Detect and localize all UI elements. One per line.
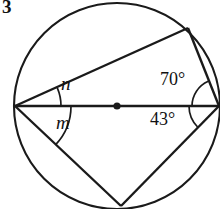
chord-left-to-topright xyxy=(15,28,188,106)
angle-label-43-degrees: 43° xyxy=(150,110,175,128)
center-dot xyxy=(113,102,120,109)
problem-number-label: 3 xyxy=(2,0,12,16)
chord-topright-to-right xyxy=(188,28,219,106)
angle-label-n: n xyxy=(61,74,71,93)
angle-arc-43 xyxy=(189,106,198,127)
circle-geometry-diagram xyxy=(0,0,220,209)
angle-arc-70 xyxy=(192,81,208,106)
geometry-figure: 3 n m 70° 43° xyxy=(0,0,220,209)
angle-label-m: m xyxy=(56,113,70,132)
angle-label-70-degrees: 70° xyxy=(160,70,185,88)
